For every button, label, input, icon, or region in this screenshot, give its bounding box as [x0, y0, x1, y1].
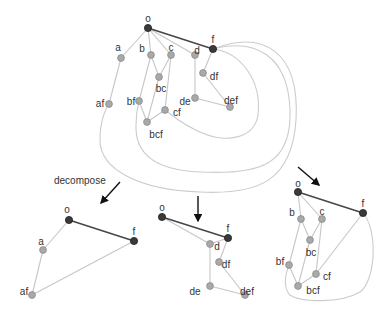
top-edge-b-bf: [139, 55, 151, 101]
left-node-label-af: af: [20, 286, 29, 297]
middle-node-label-o: o: [159, 202, 165, 213]
top-node-label-bc: bc: [156, 83, 167, 94]
right-node-f: [359, 209, 366, 216]
top-node-label-df: df: [210, 71, 219, 82]
middle-node-label-def: def: [240, 286, 254, 297]
top-node-label-c: c: [169, 42, 174, 53]
top-node-label-bcf: bcf: [149, 129, 163, 140]
left-node-af: [29, 292, 36, 299]
left-node-f: [130, 237, 137, 244]
left-node-label-f: f: [133, 226, 136, 237]
top-node-label-de: de: [179, 96, 191, 107]
top-edge-o-f: [148, 28, 213, 49]
top-node-label-o: o: [145, 13, 151, 24]
right-node-label-bc: bc: [306, 247, 317, 258]
right-node-bf: [286, 262, 293, 269]
right-node-label-bf: bf: [276, 256, 285, 267]
top-node-label-cf: cf: [173, 107, 181, 118]
top-node-o: [144, 24, 151, 31]
right-node-bcf: [295, 283, 302, 290]
right-edge-b-bf: [289, 219, 301, 265]
middle-edge-o-f: [162, 217, 228, 238]
top-node-a: [118, 55, 125, 62]
top-edge-o-b: [148, 28, 151, 55]
middle-node-d: [207, 241, 214, 248]
left-edge-o-a: [43, 220, 69, 250]
left-edge-o-f: [69, 220, 134, 241]
left-node-o: [65, 216, 72, 223]
top-node-cf: [162, 107, 169, 114]
right-node-label-f: f: [362, 198, 365, 209]
left-node-label-o: o: [64, 204, 70, 215]
arrow-right-icon: [298, 167, 319, 185]
right-node-label-cf: cf: [323, 271, 331, 282]
middle-node-label-df: df: [222, 259, 231, 270]
left-edge-af-f: [32, 241, 134, 295]
top-node-bcf: [144, 119, 151, 126]
top-node-label-f: f: [212, 34, 215, 45]
top-node-df: [200, 70, 207, 77]
right-node-label-c: c: [320, 206, 325, 217]
top-loop-edge: [165, 49, 258, 138]
right-node-cf: [313, 271, 320, 278]
left-node-label-a: a: [38, 236, 44, 247]
top-node-label-af: af: [96, 98, 105, 109]
middle-node-f: [224, 234, 231, 241]
top-loop-edge: [100, 42, 296, 192]
top-node-label-d: d: [194, 45, 200, 56]
middle-node-o: [158, 213, 165, 220]
top-node-de: [192, 95, 199, 102]
loop-edges: [100, 42, 373, 300]
middle-node-label-d: d: [214, 241, 220, 252]
lattice-decomposition-diagram: ofabcdbcdfafbfdedefcfbcfofaafofddfdedefo…: [0, 0, 388, 314]
top-node-f: [209, 45, 216, 52]
top-loop-edge: [136, 46, 290, 173]
right-node-label-bcf: bcf: [306, 285, 320, 296]
right-node-label-b: b: [289, 207, 295, 218]
right-node-b: [298, 216, 305, 223]
top-node-bc: [156, 74, 163, 81]
top-node-label-b: b: [139, 43, 145, 54]
top-node-label-def: def: [224, 95, 238, 106]
decompose-label: decompose: [54, 175, 106, 186]
right-node-o: [294, 188, 301, 195]
left-node-a: [40, 247, 47, 254]
top-node-b: [148, 52, 155, 59]
middle-node-de: [207, 283, 214, 290]
right-node-label-o: o: [295, 178, 301, 189]
left-edge-a-af: [32, 250, 43, 295]
decompose-arrows: [101, 167, 319, 221]
top-node-af: [106, 101, 113, 108]
top-edge-a-af: [109, 58, 121, 104]
top-node-label-bf: bf: [127, 96, 136, 107]
middle-node-label-f: f: [227, 223, 230, 234]
right-edge-o-b: [298, 192, 301, 219]
middle-node-label-de: de: [189, 286, 201, 297]
top-node-bf: [136, 98, 143, 105]
top-node-label-a: a: [115, 42, 121, 53]
right-node-bc: [307, 237, 314, 244]
